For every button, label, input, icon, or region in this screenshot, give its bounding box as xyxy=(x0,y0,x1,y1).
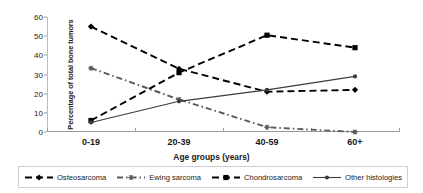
data-point-other-histologies xyxy=(89,120,93,124)
legend-marker-diamond-icon xyxy=(36,174,42,180)
y-tick-label: 10 xyxy=(34,108,43,117)
data-point-chondrosarcoma xyxy=(176,70,181,75)
x-tick-mark xyxy=(399,128,400,132)
data-point-other-histologies xyxy=(265,88,269,92)
series-lines xyxy=(47,17,399,132)
x-axis-title: Age groups (years) xyxy=(0,152,423,162)
data-point-other-histologies xyxy=(177,99,181,103)
x-tick-label: 60+ xyxy=(347,137,362,147)
legend-swatch-star-icon xyxy=(116,173,146,182)
legend-label: Osteosarcoma xyxy=(56,173,106,182)
y-tick-label: 30 xyxy=(34,70,43,79)
data-point-chondrosarcoma xyxy=(352,45,357,50)
data-point-osteosarcoma xyxy=(88,23,94,29)
y-tick-label: 50 xyxy=(34,32,43,41)
chart-plot-area: Percentage of total bone tumors 01020304… xyxy=(0,0,423,158)
legend-label: Other histologies xyxy=(344,173,402,182)
x-tick-label: 0-19 xyxy=(82,137,100,147)
series-line-ewing-sarcoma xyxy=(91,68,355,132)
y-tick-label: 60 xyxy=(34,13,43,22)
plot-region: Percentage of total bone tumors 01020304… xyxy=(47,17,399,132)
data-point-chondrosarcoma xyxy=(264,33,269,38)
legend-swatch-diamond-icon xyxy=(24,173,54,182)
data-point-ewing-sarcoma xyxy=(264,125,269,130)
legend-item-ewing-sarcoma[interactable]: Ewing sarcoma xyxy=(116,173,201,182)
series-line-chondrosarcoma xyxy=(91,35,355,120)
legend-swatch-dot-icon xyxy=(312,173,342,182)
data-point-osteosarcoma xyxy=(352,87,358,93)
chart-figure: Percentage of total bone tumors 01020304… xyxy=(0,0,423,193)
legend-marker-square-icon xyxy=(223,174,228,179)
y-tick-label: 20 xyxy=(34,89,43,98)
legend-label: Ewing sarcoma xyxy=(148,173,201,182)
legend-item-other-histologies[interactable]: Other histologies xyxy=(312,173,402,182)
chart-legend: OsteosarcomaEwing sarcomaChondrosarcomaO… xyxy=(18,166,408,188)
x-tick-label: 40-59 xyxy=(255,137,278,147)
legend-marker-star-icon xyxy=(129,175,134,180)
y-tick-label: 0 xyxy=(39,128,43,137)
legend-label: Chondrosarcoma xyxy=(243,173,302,182)
legend-item-chondrosarcoma[interactable]: Chondrosarcoma xyxy=(211,173,302,182)
data-point-ewing-sarcoma xyxy=(352,130,357,135)
x-tick-label: 20-39 xyxy=(167,137,190,147)
legend-item-osteosarcoma[interactable]: Osteosarcoma xyxy=(24,173,106,182)
y-tick-label: 40 xyxy=(34,51,43,60)
legend-swatch-square-icon xyxy=(211,173,241,182)
legend-marker-dot-icon xyxy=(325,175,329,179)
data-point-other-histologies xyxy=(353,74,357,78)
